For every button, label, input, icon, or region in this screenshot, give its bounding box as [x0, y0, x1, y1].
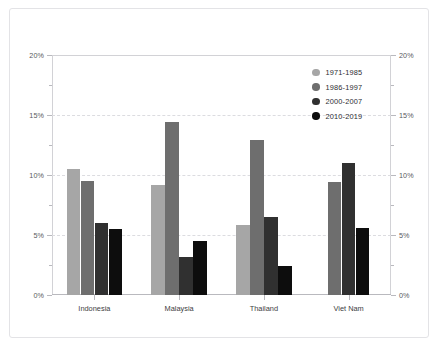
y-minor-tick-right-2.5 [391, 265, 394, 266]
bar-malaysia-1971-1985 [151, 185, 165, 295]
y-axis-left-label-10: 10% [29, 171, 44, 180]
legend-swatch-circle-icon [312, 69, 320, 77]
legend-item-label: 2000-2007 [326, 97, 363, 106]
x-axis-label-viet-nam: Viet Nam [333, 304, 363, 313]
y-minor-tick-right-7.5 [391, 205, 394, 206]
legend-item-label: 2010-2019 [326, 112, 363, 121]
y-minor-tick-right-12.5 [391, 145, 394, 146]
bar-viet-nam-2010-2019 [356, 228, 370, 295]
y-axis-left-label-20: 20% [29, 51, 44, 60]
bar-indonesia-2010-2019 [109, 229, 123, 295]
gridline-10 [52, 175, 391, 176]
y-axis-right-label-15: 15% [399, 111, 414, 120]
bar-thailand-1971-1985 [236, 225, 250, 295]
x-axis-label-indonesia: Indonesia [78, 304, 110, 313]
chart-figure: 0%5%10%15%20% 0%5%10%15%20% IndonesiaMal… [0, 0, 438, 354]
x-axis-label-malaysia: Malaysia [165, 304, 194, 313]
x-tick-malaysia [179, 295, 180, 300]
y-minor-tick-left-17.5 [49, 85, 52, 86]
legend-item-label: 1986-1997 [326, 83, 363, 92]
legend-swatch-circle-icon [312, 98, 320, 106]
bar-malaysia-2010-2019 [193, 241, 207, 295]
bar-viet-nam-1986-1997 [328, 182, 342, 295]
legend-swatch-circle-icon [312, 112, 320, 120]
gridline-20 [52, 55, 391, 56]
y-axis-left-label-5: 5% [33, 231, 44, 240]
y-tick-left-15 [47, 115, 52, 116]
legend-item-1986-1997[interactable]: 1986-1997 [312, 81, 362, 94]
y-axis-right-label-20: 20% [399, 51, 414, 60]
y-axis-left-label-0: 0% [33, 291, 44, 300]
y-minor-tick-left-12.5 [49, 145, 52, 146]
y-axis-right-label-10: 10% [399, 171, 414, 180]
x-tick-thailand [264, 295, 265, 300]
bar-malaysia-1986-1997 [165, 122, 179, 295]
bar-indonesia-1971-1985 [67, 169, 81, 295]
y-tick-left-20 [47, 55, 52, 56]
y-minor-tick-right-17.5 [391, 85, 394, 86]
bar-indonesia-1986-1997 [81, 181, 95, 295]
y-tick-right-15 [391, 115, 396, 116]
x-axis-label-thailand: Thailand [250, 304, 278, 313]
legend-item-2000-2007[interactable]: 2000-2007 [312, 95, 362, 108]
x-tick-indonesia [94, 295, 95, 300]
legend-item-2010-2019[interactable]: 2010-2019 [312, 110, 362, 123]
y-axis-left-label-15: 15% [29, 111, 44, 120]
bar-thailand-2010-2019 [278, 266, 292, 295]
y-tick-right-20 [391, 55, 396, 56]
y-axis-right-label-5: 5% [399, 231, 410, 240]
bar-malaysia-2000-2007 [179, 257, 193, 295]
y-axis-right-label-0: 0% [399, 291, 410, 300]
legend-swatch-circle-icon [312, 83, 320, 91]
bar-viet-nam-2000-2007 [342, 163, 356, 295]
y-tick-right-5 [391, 235, 396, 236]
bar-thailand-1986-1997 [250, 140, 264, 295]
y-tick-right-10 [391, 175, 396, 176]
legend-item-1971-1985[interactable]: 1971-1985 [312, 66, 362, 79]
x-tick-viet-nam [349, 295, 350, 300]
y-tick-right-0 [391, 295, 396, 296]
y-minor-tick-left-7.5 [49, 205, 52, 206]
y-tick-left-10 [47, 175, 52, 176]
bar-thailand-2000-2007 [264, 217, 278, 295]
bar-indonesia-2000-2007 [95, 223, 109, 295]
chart-legend: 1971-19851986-19972000-20072010-2019 [312, 66, 362, 124]
y-tick-left-5 [47, 235, 52, 236]
y-tick-left-0 [47, 295, 52, 296]
y-minor-tick-left-2.5 [49, 265, 52, 266]
legend-item-label: 1971-1985 [326, 68, 363, 77]
